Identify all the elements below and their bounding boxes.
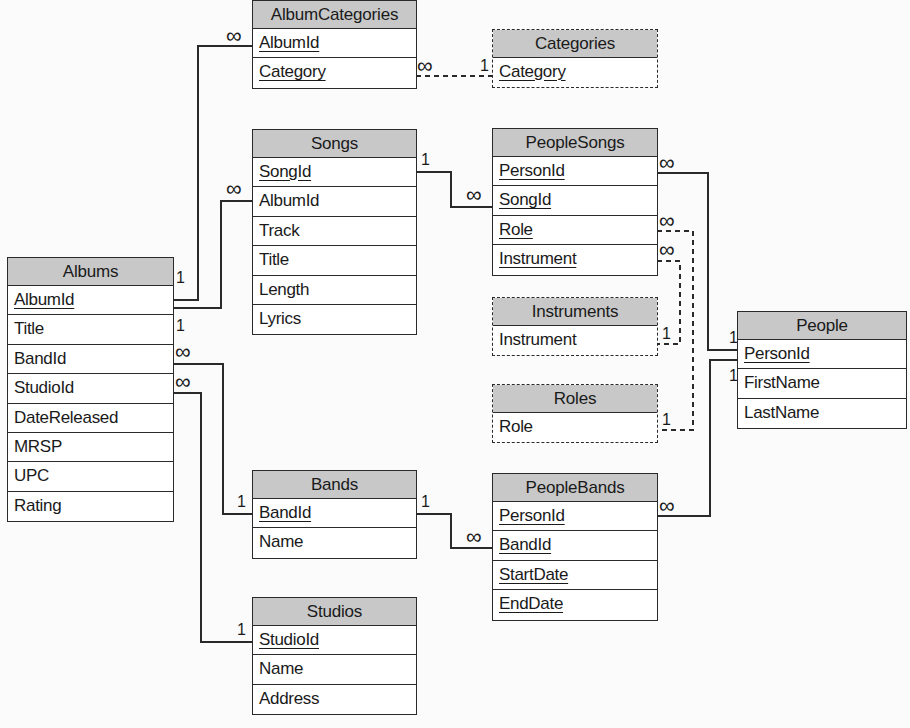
field-row[interactable]: SongId [253,158,416,187]
link-albums-studios [173,393,252,642]
table-header: Songs [253,130,416,158]
field-row[interactable]: Address [253,685,416,714]
card-instruments-one: 1 [662,326,671,342]
card-ps-personid-many: ∞ [659,155,675,171]
field-row[interactable]: SongId [493,186,657,215]
table-roles[interactable]: Roles Role [492,384,658,443]
card-pb-bandid-many: ∞ [466,529,482,545]
card-ps-role-many: ∞ [659,213,675,229]
card-studios-one: 1 [237,622,246,638]
field-row[interactable]: Title [8,315,173,344]
table-studios[interactable]: Studios StudioId Name Address [252,597,417,715]
field-row[interactable]: Lyrics [253,305,416,334]
field-row[interactable]: StudioId [8,374,173,403]
table-header: Roles [493,385,657,413]
link-albums-albumcategories [173,46,252,300]
card-bands-pb-one: 1 [421,494,430,510]
card-ps-songid-many: ∞ [466,187,482,203]
field-row[interactable]: Name [253,655,416,684]
card-albums-ac-one: 1 [176,270,185,286]
table-songs[interactable]: Songs SongId AlbumId Track Title Length … [252,129,417,335]
table-instruments[interactable]: Instruments Instrument [492,297,658,356]
link-albums-songs [173,201,252,308]
card-albums-songs-one: 1 [176,318,185,334]
table-people-songs[interactable]: PeopleSongs PersonId SongId Role Instrum… [492,128,658,276]
field-row[interactable]: Rating [8,492,173,521]
field-row[interactable]: StudioId [253,626,416,655]
card-songs-songid-one: 1 [421,152,430,168]
field-row[interactable]: Instrument [493,245,657,274]
card-bands-albums-one: 1 [237,494,246,510]
field-row[interactable]: FirstName [738,369,906,398]
field-row[interactable]: PersonId [493,157,657,186]
table-people-bands[interactable]: PeopleBands PersonId BandId StartDate En… [492,473,658,621]
table-header: PeopleSongs [493,129,657,157]
field-row[interactable]: Category [493,58,657,87]
card-categories-one: 1 [480,58,489,74]
field-row[interactable]: PersonId [738,340,906,369]
field-row[interactable]: UPC [8,462,173,491]
field-row[interactable]: Track [253,217,416,246]
table-categories[interactable]: Categories Category [492,29,658,88]
field-row[interactable]: BandId [8,345,173,374]
field-row[interactable]: Length [253,276,416,305]
field-row[interactable]: Title [253,246,416,275]
field-row[interactable]: StartDate [493,561,657,590]
table-header: Categories [493,30,657,58]
table-header: Studios [253,598,416,626]
table-header: Albums [8,258,173,286]
table-header: AlbumCategories [253,1,416,29]
table-albums[interactable]: Albums AlbumId Title BandId StudioId Dat… [7,257,174,522]
card-albums-bandid-many: ∞ [175,344,191,360]
table-album-categories[interactable]: AlbumCategories AlbumId Category [252,0,417,89]
field-row[interactable]: AlbumId [8,286,173,315]
table-bands[interactable]: Bands BandId Name [252,470,417,559]
table-header: Instruments [493,298,657,326]
card-ps-instrument-many: ∞ [659,242,675,258]
field-row[interactable]: EndDate [493,590,657,619]
card-songs-albumid-many: ∞ [226,181,242,197]
field-row[interactable]: AlbumId [253,187,416,216]
field-row[interactable]: Role [493,216,657,245]
field-row[interactable]: Role [493,413,657,442]
field-row[interactable]: DateReleased [8,404,173,433]
field-row[interactable]: LastName [738,399,906,428]
field-row[interactable]: Instrument [493,326,657,355]
field-row[interactable]: Name [253,528,416,557]
table-people[interactable]: People PersonId FirstName LastName [737,311,907,429]
field-row[interactable]: PersonId [493,502,657,531]
field-row[interactable]: BandId [493,531,657,560]
table-header: People [738,312,906,340]
card-pb-personid-many: ∞ [659,498,675,514]
table-header: Bands [253,471,416,499]
er-diagram: 1 1 ∞ ∞ ∞ ∞ 1 ∞ 1 ∞ ∞ ∞ ∞ 1 1 1 1 1 1 ∞ … [0,0,910,728]
card-ac-albumid-many: ∞ [226,28,242,44]
field-row[interactable]: BandId [253,499,416,528]
table-header: PeopleBands [493,474,657,502]
card-ac-category-many: ∞ [417,58,433,74]
field-row[interactable]: Category [253,58,416,87]
card-albums-studioid-many: ∞ [175,374,191,390]
field-row[interactable]: AlbumId [253,29,416,58]
card-roles-one: 1 [662,412,671,428]
field-row[interactable]: MRSP [8,433,173,462]
